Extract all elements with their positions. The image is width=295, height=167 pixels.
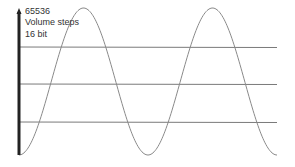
gridline bbox=[19, 47, 277, 48]
units-label: Volume steps bbox=[25, 17, 79, 28]
gridline bbox=[19, 122, 277, 123]
gridline bbox=[19, 84, 277, 85]
axis-arrow-icon bbox=[17, 8, 22, 14]
max-value-label: 65536 bbox=[25, 6, 50, 17]
sine-wave bbox=[19, 8, 277, 155]
bit-depth-label: 16 bit bbox=[25, 29, 47, 40]
